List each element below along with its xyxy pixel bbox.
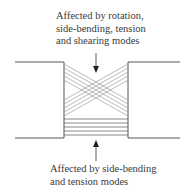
arrow-up-icon: [93, 140, 99, 161]
top-annotation-line: Affected by rotation,: [56, 10, 146, 23]
top-annotation-line: side-bending, tension: [56, 23, 146, 36]
top-right-edge: [128, 62, 180, 138]
bottom-annotation-line: and tension modes: [50, 176, 157, 189]
bottom-annotation: Affected by side-bending and tension mod…: [50, 163, 157, 188]
parallel-fibres: [64, 119, 128, 135]
bottom-annotation-line: Affected by side-bending: [50, 163, 157, 176]
top-left-edge: [15, 62, 64, 138]
arrow-down-icon: [93, 53, 99, 73]
top-annotation: Affected by rotation, side-bending, tens…: [56, 10, 146, 48]
top-annotation-line: and shearing modes: [56, 35, 146, 48]
structure-outline: [15, 62, 180, 138]
